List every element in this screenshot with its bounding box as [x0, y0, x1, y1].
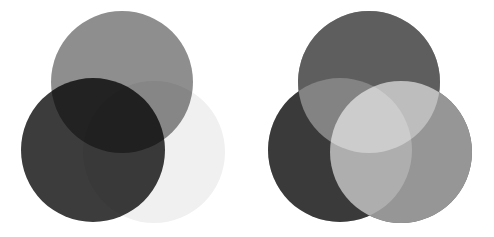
additive-venn-group — [0, 0, 494, 237]
subtractive-circle-top — [51, 11, 193, 153]
additive-circle-bottom-left — [268, 78, 412, 222]
additive-circle-top — [298, 11, 440, 153]
subtractive-venn-svg — [0, 0, 494, 237]
subtractive-venn-group — [0, 0, 494, 237]
caption-layer — [0, 0, 494, 237]
subtractive-circle-bottom-right — [83, 81, 225, 223]
additive-venn-svg — [0, 0, 494, 237]
color-mixing-figure — [0, 0, 494, 237]
subtractive-circle-bottom-left — [21, 78, 165, 222]
additive-circle-bottom-right — [330, 81, 472, 223]
additive-blend-stack — [0, 0, 494, 237]
additive-blend-backdrop — [0, 0, 494, 237]
